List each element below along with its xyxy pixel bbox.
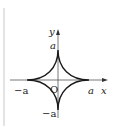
neg-x-tick-label: −a bbox=[14, 85, 28, 96]
pos-x-tick-label: a bbox=[88, 85, 94, 96]
pos-y-tick-label: a bbox=[50, 40, 56, 51]
astroid-diagram: y a −a O a x −a bbox=[0, 0, 114, 134]
origin-label: O bbox=[50, 84, 58, 95]
y-axis-arrow-icon bbox=[56, 29, 60, 35]
astroid-figure: y a −a O a x −a bbox=[0, 0, 114, 134]
x-axis-label: x bbox=[101, 85, 107, 96]
y-axis-label: y bbox=[48, 26, 55, 37]
x-axis-arrow-icon bbox=[102, 78, 108, 82]
neg-y-tick-label: −a bbox=[42, 108, 56, 119]
